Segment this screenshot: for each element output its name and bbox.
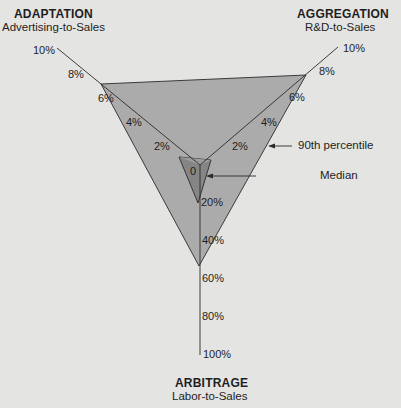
aggregation-tick-4: 4% [261, 116, 277, 128]
adaptation-tick-4: 4% [126, 116, 142, 128]
aggregation-tick-6: 6% [289, 91, 305, 103]
arbitrage-tick-100: 100% [203, 348, 231, 360]
adaptation-tick-10: 10% [33, 44, 55, 56]
legend-median: Median [320, 169, 358, 181]
aggregation-tick-10: 10% [343, 42, 365, 54]
adaptation-title: ADAPTATION [14, 7, 93, 21]
p90-arrow-icon [268, 144, 275, 149]
adaptation-tick-2: 2% [154, 140, 170, 152]
aggregation-tick-2: 2% [232, 140, 248, 152]
arbitrage-tick-60: 60% [202, 272, 224, 284]
radar-diagram: ADAPTATION Advertising-to-Sales 10% 8% 6… [0, 0, 401, 408]
adaptation-tick-8: 8% [68, 68, 84, 80]
adaptation-subtitle: Advertising-to-Sales [2, 21, 105, 33]
arbitrage-tick-20: 20% [201, 196, 223, 208]
arbitrage-subtitle: Labor-to-Sales [172, 390, 247, 402]
center-label: 0 [190, 165, 196, 177]
arbitrage-tick-80: 80% [202, 310, 224, 322]
arbitrage-title: ARBITRAGE [175, 376, 248, 390]
aggregation-tick-8: 8% [319, 65, 335, 77]
legend-90th-percentile: 90th percentile [298, 139, 373, 151]
aggregation-title: AGGREGATION [297, 7, 389, 21]
arbitrage-tick-40: 40% [202, 234, 224, 246]
aggregation-subtitle: R&D-to-Sales [305, 21, 375, 33]
adaptation-tick-6: 6% [98, 92, 114, 104]
